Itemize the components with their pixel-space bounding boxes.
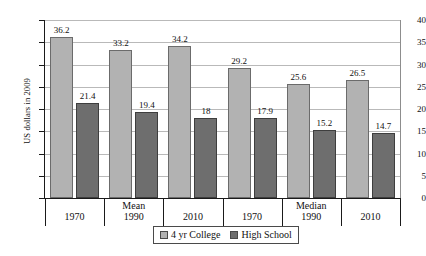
- legend-item: 4 yr College: [160, 229, 220, 241]
- x-axis-year-label: 1990: [124, 211, 144, 222]
- x-axis-year-label: 2010: [360, 211, 380, 222]
- x-axis-year-label: 1970: [65, 211, 85, 222]
- plot-right-border: [400, 20, 401, 199]
- bar-value-label: 25.6: [290, 72, 306, 82]
- legend: 4 yr CollegeHigh School: [153, 226, 299, 244]
- bar: [313, 130, 336, 198]
- legend-label: 4 yr College: [171, 229, 220, 241]
- plot-area: 36.221.433.219.434.21829.217.925.615.226…: [45, 20, 400, 198]
- bar-value-label: 34.2: [172, 34, 188, 44]
- bar: [254, 118, 277, 198]
- x-axis-year-label: 1970: [242, 211, 262, 222]
- bar-chart: US dollars in 2009 0510152025303540 36.2…: [0, 0, 426, 256]
- bar: [50, 37, 73, 198]
- x-axis-group-label: Mean: [94, 200, 174, 211]
- bar: [194, 118, 217, 198]
- legend-item: High School: [230, 229, 291, 241]
- x-axis-separator: [45, 198, 46, 226]
- bar-value-label: 26.5: [350, 68, 366, 78]
- x-axis-year-label: 2010: [183, 211, 203, 222]
- bar-value-label: 36.2: [54, 25, 70, 35]
- bar-value-label: 18: [201, 106, 210, 116]
- x-axis-separator: [400, 198, 401, 226]
- legend-swatch-icon: [230, 231, 238, 239]
- x-axis-group-label: Median: [271, 200, 351, 211]
- x-axis-separator: [341, 198, 342, 226]
- bar-value-label: 29.2: [231, 56, 247, 66]
- bar: [135, 112, 158, 198]
- bar: [168, 46, 191, 198]
- y-axis-title: US dollars in 2009: [22, 41, 32, 181]
- x-axis-label: 2010: [330, 211, 410, 222]
- bar: [346, 80, 369, 198]
- x-axis-separator: [163, 198, 164, 226]
- bar-value-label: 14.7: [376, 121, 392, 131]
- bar-value-label: 33.2: [113, 38, 129, 48]
- x-axis-separator: [104, 198, 105, 226]
- bar-value-label: 21.4: [80, 91, 96, 101]
- bar: [109, 50, 132, 198]
- bar: [287, 84, 310, 198]
- x-axis-categories: 1970Mean199020101970Median19902010: [45, 198, 401, 228]
- bar-value-label: 19.4: [139, 100, 155, 110]
- bar-value-label: 17.9: [257, 106, 273, 116]
- bar-value-label: 15.2: [316, 118, 332, 128]
- bar: [372, 133, 395, 198]
- bar: [76, 103, 99, 198]
- x-axis-separator: [223, 198, 224, 226]
- x-axis-year-label: 1990: [301, 211, 321, 222]
- legend-swatch-icon: [160, 231, 168, 239]
- x-axis-separator: [282, 198, 283, 226]
- bar: [228, 68, 251, 198]
- legend-label: High School: [241, 229, 291, 241]
